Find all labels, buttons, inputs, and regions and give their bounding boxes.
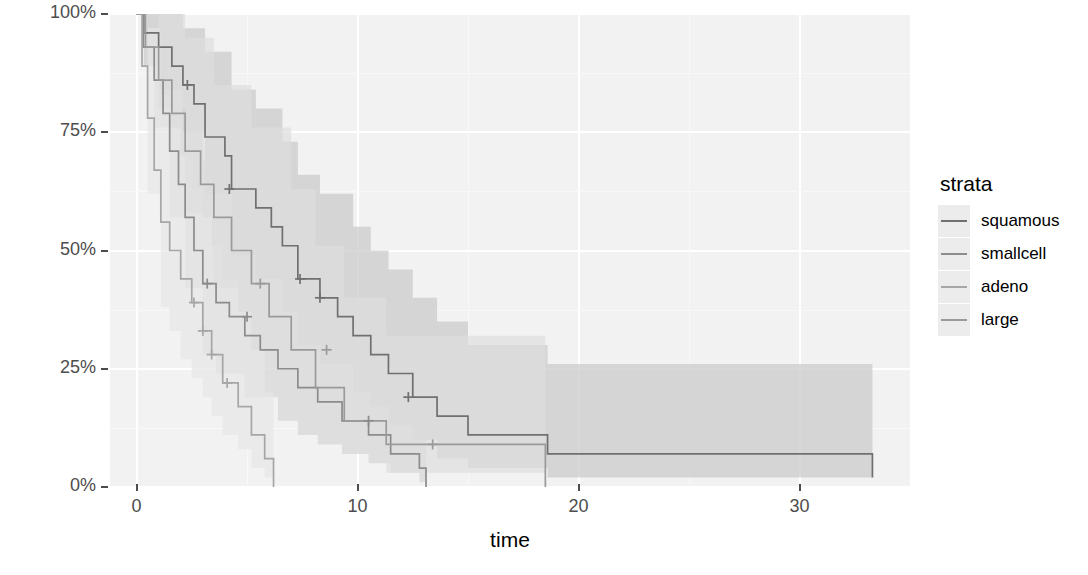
y-tick-mark — [101, 486, 108, 488]
x-tick-label: 30 — [770, 496, 830, 517]
y-tick-label: 25% — [0, 357, 110, 378]
legend-key-line — [941, 253, 967, 255]
x-tick-label: 10 — [328, 496, 388, 517]
y-tick-label: 0% — [0, 475, 110, 496]
y-tick-mark — [101, 131, 108, 133]
y-tick-mark — [101, 13, 108, 15]
y-tick-label: 75% — [0, 120, 110, 141]
legend-key-swatch — [938, 271, 970, 303]
legend-key-line — [941, 286, 967, 288]
legend-item-label: adeno — [981, 277, 1028, 297]
x-tick-mark — [136, 484, 138, 491]
x-tick-label: 20 — [549, 496, 609, 517]
y-tick-label: 50% — [0, 239, 110, 260]
legend-title: strata — [940, 172, 1088, 196]
y-tick-mark — [101, 250, 108, 252]
x-tick-mark — [578, 484, 580, 491]
survival-plot-figure: surv 100%75%50%25%0% 0102030 time strata… — [0, 0, 1088, 575]
x-tick-mark — [357, 484, 359, 491]
legend-item-label: smallcell — [981, 244, 1046, 264]
legend-key-line — [941, 220, 967, 222]
legend-key-line — [941, 319, 967, 321]
y-tick-mark — [101, 368, 108, 370]
legend-item-large[interactable]: large — [938, 303, 1088, 336]
legend-item-adeno[interactable]: adeno — [938, 270, 1088, 303]
x-tick-mark — [799, 484, 801, 491]
x-tick-label: 0 — [107, 496, 167, 517]
legend-item-squamous[interactable]: squamous — [938, 204, 1088, 237]
legend: strata squamoussmallcelladenolarge — [938, 172, 1088, 336]
legend-key-swatch — [938, 304, 970, 336]
survival-curves-svg — [110, 14, 910, 487]
legend-key-swatch — [938, 238, 970, 270]
legend-item-label: large — [981, 310, 1019, 330]
plot-panel — [110, 14, 910, 487]
legend-items: squamoussmallcelladenolarge — [938, 204, 1088, 336]
x-axis-title: time — [110, 528, 910, 552]
y-tick-label: 100% — [0, 2, 110, 23]
legend-key-swatch — [938, 205, 970, 237]
legend-item-label: squamous — [981, 211, 1059, 231]
legend-item-smallcell[interactable]: smallcell — [938, 237, 1088, 270]
